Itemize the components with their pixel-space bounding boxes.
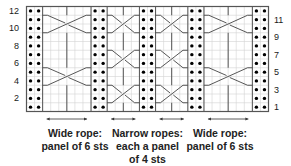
caption-wide-rope-right: Wide rope: panel of 6 sts (175, 127, 265, 153)
row-number-left: 4 (14, 76, 19, 86)
row-number-left: 12 (9, 6, 19, 16)
row-number-right: 3 (274, 85, 279, 95)
caption-line: Wide rope: (175, 127, 265, 140)
row-number-right: 1 (274, 102, 279, 112)
caption-line: of 4 sts (100, 153, 195, 166)
row-number-right: 7 (274, 50, 279, 60)
row-number-right: 9 (274, 32, 279, 42)
row-number-left: 8 (14, 41, 19, 51)
row-number-right: 11 (274, 15, 283, 25)
panel-width-arrows (47, 118, 249, 121)
row-number-right: 5 (274, 67, 279, 77)
knitting-chart: 246810121357911 (0, 0, 291, 125)
row-number-left: 6 (14, 58, 19, 68)
row-number-left: 10 (9, 23, 19, 33)
caption-line: panel of 6 sts (175, 140, 265, 153)
row-number-left: 2 (14, 93, 19, 103)
